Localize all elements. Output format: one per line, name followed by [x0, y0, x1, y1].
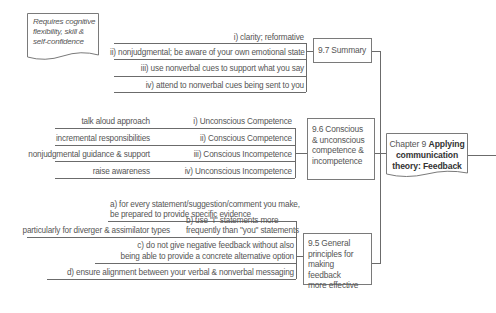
chapter-outgoing-line: [468, 155, 496, 156]
branch-line: [114, 43, 306, 44]
branch-line: [55, 128, 295, 129]
summary-item-2: ii) nonjudgmental; be aware of your own …: [110, 48, 304, 58]
branch-line: [114, 76, 306, 77]
callout-text: Requires cognitive flexibility, skill & …: [33, 17, 95, 47]
competence-approach-4: raise awareness: [40, 167, 150, 177]
competence-stage-3: iii) Conscious Incompetence: [160, 150, 292, 160]
main-bus-line: [380, 51, 381, 264]
branch-line: [55, 161, 295, 162]
branch-line: [114, 59, 306, 60]
connector-line: [372, 263, 381, 264]
principle-d-line1: d) ensure alignment between your verbal …: [40, 268, 294, 278]
branch-line: [47, 279, 296, 280]
principle-c-line1: c) do not give negative feedback without…: [90, 241, 294, 251]
principle-c-line2: being able to provide a concrete alterna…: [90, 252, 294, 262]
competence-approach-2: incremental responsibilities: [40, 134, 150, 144]
branch-line: [27, 237, 296, 238]
competence-approach-3: nonjudgmental guidance & support: [20, 150, 150, 160]
branch-line: [114, 92, 306, 93]
competence-approach-1: talk aloud approach: [40, 117, 150, 127]
competence-stage-2: ii) Conscious Competence: [160, 134, 292, 144]
summary-item-4: iv) attend to nonverbal cues being sent …: [110, 81, 304, 91]
principle-a-line1: a) for every statement/suggestion/commen…: [110, 200, 300, 210]
summary-item-1: i) clarity; reformative: [150, 33, 304, 43]
principle-b-line1: b) use "I" statements more: [186, 216, 278, 226]
chapter-node[interactable]: Chapter 9 Applying communication theory:…: [386, 133, 468, 179]
competence-stage-1: i) Unconscious Competence: [160, 117, 292, 127]
principles-node[interactable]: 9.5 General principles for making feedba…: [303, 233, 372, 285]
chapter-title: Chapter 9 Applying communication theory:…: [386, 139, 468, 172]
branch-line: [55, 145, 295, 146]
branch-line: [95, 263, 296, 264]
competence-node[interactable]: 9.6 Conscious & unconscious competence &…: [307, 118, 375, 180]
branch-line: [55, 178, 295, 179]
principle-b-line2: frequently than "you" statements: [186, 226, 299, 236]
summary-node[interactable]: 9.7 Summary: [313, 38, 372, 63]
summary-item-3: iii) use nonverbal cues to support what …: [110, 64, 304, 74]
principle-b-note: particularly for diverger & assimilator …: [20, 226, 170, 236]
branch-bracket: [296, 221, 297, 279]
competence-stage-4: iv) Unconscious Incompetence: [160, 167, 292, 177]
callout-note: Requires cognitive flexibility, skill & …: [27, 13, 99, 61]
summary-node-label: 9.7 Summary: [318, 45, 366, 55]
